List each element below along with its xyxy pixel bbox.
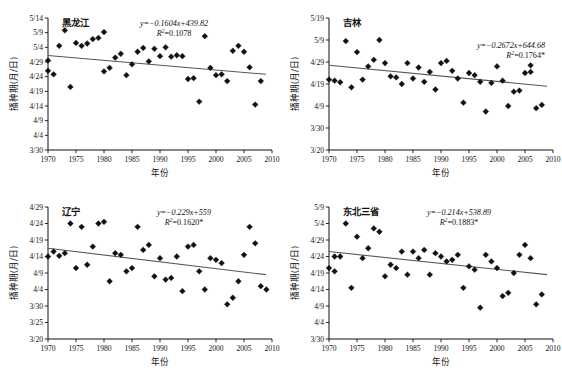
y-tick-label: 5/9 [33,28,43,37]
data-point-marker [421,79,427,85]
data-point-marker [433,250,439,256]
data-point-marker [399,81,405,87]
r-squared-label: R2=0.1620* [164,217,204,227]
data-point-marker [68,221,74,227]
panel-title: 东北三省 [343,206,380,217]
y-tick-label: 4/14 [310,285,324,294]
data-point-marker [360,255,366,261]
data-point-marker [522,242,528,248]
x-tick-label: 2000 [208,344,223,353]
data-point-marker [326,265,332,271]
data-point-marker [79,43,85,49]
data-point-marker [410,76,416,82]
data-points [45,219,269,307]
data-point-marker [196,99,202,105]
data-points [326,221,545,311]
data-point-marker [405,60,411,66]
data-point-marker [163,277,169,283]
data-point-marker [202,287,208,293]
data-point-marker [354,234,360,240]
y-tick-label: 4/29 [310,236,324,245]
data-point-marker [371,226,377,232]
y-tick-label: 4/19 [29,87,43,96]
data-point-marker [461,285,467,291]
data-point-marker [191,242,197,248]
x-tick-label: 2010 [545,344,560,353]
data-point-marker [382,273,388,279]
y-tick-label: 5/4 [314,219,324,228]
y-tick-label: 4/19 [310,80,324,89]
x-tick-label: 2005 [517,344,532,353]
data-point-marker [505,103,511,109]
data-point-marker [444,58,450,64]
regression-equation: y=−0.214x+538.89 [426,208,491,217]
data-point-marker [73,40,79,46]
data-point-marker [45,68,51,74]
x-tick-label: 2010 [264,344,279,353]
y-tick-label: 3/30 [29,302,43,311]
x-axis-label: 年份 [432,167,450,178]
y-tick-label: 4/9 [314,302,324,311]
data-point-marker [489,259,495,265]
x-axis-label: 年份 [432,356,450,367]
data-point-marker [343,38,349,44]
data-point-marker [112,55,118,61]
data-point-marker [349,84,355,90]
regression-equation: y=−0.229x+559 [156,208,211,217]
y-tick-label: 4/29 [310,58,324,67]
data-point-marker [185,76,191,82]
data-point-marker [101,219,107,225]
data-point-marker [180,53,186,59]
data-point-marker [427,69,433,75]
data-point-marker [500,78,506,84]
y-tick-label: 3/30 [310,335,324,344]
data-point-marker [466,70,472,76]
x-tick-label: 1970 [321,155,336,164]
x-tick-label: 1975 [68,155,83,164]
data-point-marker [377,37,383,43]
y-tick-label: 4/24 [29,72,43,81]
data-point-marker [258,78,264,84]
x-tick-label: 1970 [40,155,55,164]
data-point-marker [68,84,74,90]
x-axis-label: 年份 [151,356,169,367]
x-tick-label: 1980 [377,344,392,353]
data-point-marker [51,71,57,77]
data-point-marker [202,33,208,39]
data-point-marker [399,249,405,255]
data-point-marker [107,278,113,284]
scatter-plot: 5/145/95/44/294/244/194/144/94/43/301970… [0,0,281,188]
data-point-marker [393,265,399,271]
data-point-marker [84,41,90,47]
data-point-marker [241,252,247,258]
data-point-marker [168,275,174,281]
data-point-marker [247,224,253,230]
data-point-marker [461,100,467,106]
data-point-marker [365,245,371,251]
data-point-marker [196,268,202,274]
x-tick-label: 1975 [349,344,364,353]
data-point-marker [112,250,118,256]
data-point-marker [472,72,478,78]
data-point-marker [511,89,517,95]
x-tick-label: 1975 [349,155,364,164]
data-point-marker [152,273,158,279]
x-tick-label: 1995 [180,344,195,353]
data-point-marker [230,48,236,54]
data-point-marker [208,255,214,261]
data-point-marker [152,46,158,52]
data-point-marker [84,262,90,268]
data-point-marker [252,240,258,246]
scatter-plot: 5/95/44/294/244/194/144/94/43/3019701975… [281,189,562,377]
y-tick-label: 4/14 [29,102,43,111]
data-point-marker [455,252,461,258]
data-point-marker [129,265,135,271]
data-point-marker [219,71,225,77]
data-point-marker [405,272,411,278]
data-point-marker [101,29,107,35]
data-point-marker [533,301,539,307]
data-point-marker [388,262,394,268]
data-point-marker [337,254,343,260]
data-point-marker [438,254,444,260]
data-point-marker [107,65,113,71]
